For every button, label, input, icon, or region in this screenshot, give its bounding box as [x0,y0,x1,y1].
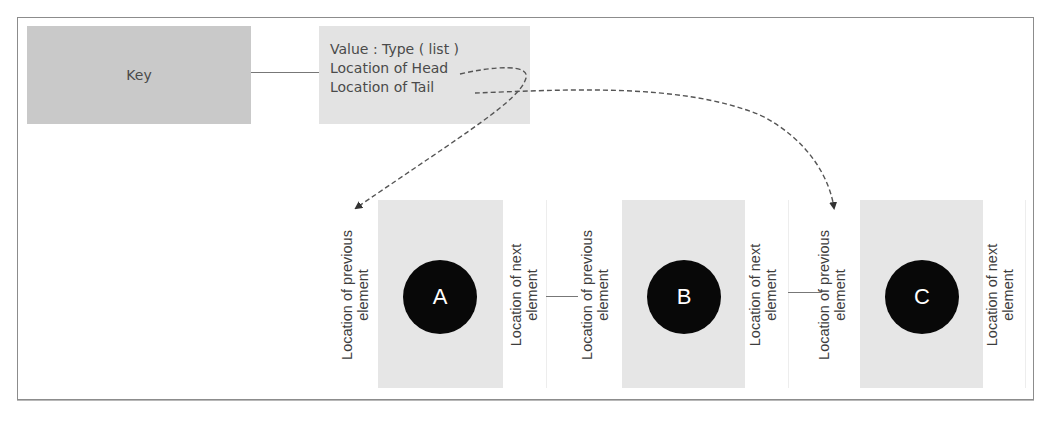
tail-pointer-arrow [475,90,834,208]
head-pointer-arrow [356,68,526,208]
pointer-overlay [0,0,1058,423]
